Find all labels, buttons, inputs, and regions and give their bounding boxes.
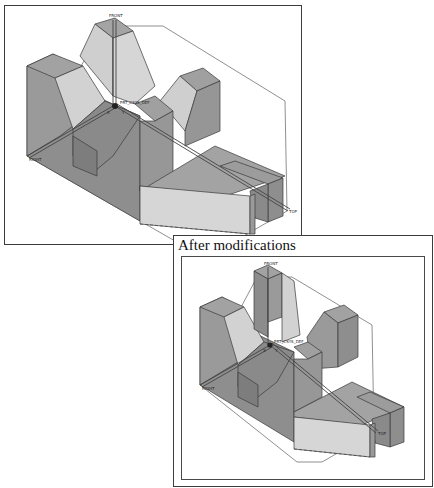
model-view-after: After modifications — [173, 235, 433, 487]
datum-label-right: RIGHT — [202, 386, 215, 391]
datum-label-right: RIGHT — [29, 157, 42, 162]
viewport-frame: FRONT PRT_CSYS_DEF RIGHT TOP X Y — [181, 256, 425, 480]
datum-label-top: TOP — [288, 209, 298, 214]
cad-model-before: FRONT PRT_CSYS_DEF RIGHT TOP X Y — [5, 6, 303, 246]
datum-label-front: FRONT — [109, 13, 123, 18]
csys-origin-icon — [267, 342, 272, 347]
model-view-before: FRONT PRT_CSYS_DEF RIGHT TOP X Y — [4, 5, 302, 245]
axis-label-y: Y — [274, 348, 278, 353]
datum-label-top: TOP — [377, 431, 387, 436]
axis-label-x: X — [263, 348, 266, 353]
cad-model-after: FRONT PRT_CSYS_DEF RIGHT TOP X Y — [182, 257, 424, 479]
csys-origin-icon — [112, 103, 118, 109]
datum-label-csys: PRT_CSYS_DEF — [274, 339, 304, 344]
panel-caption: After modifications — [178, 237, 296, 254]
axis-label-y: Y — [121, 110, 125, 115]
part-geometry — [27, 18, 285, 234]
axis-label-x: X — [107, 110, 110, 115]
datum-label-csys: PRT_CSYS_DEF — [120, 100, 150, 105]
part-geometry — [200, 265, 404, 457]
datum-label-front: FRONT — [264, 261, 278, 266]
